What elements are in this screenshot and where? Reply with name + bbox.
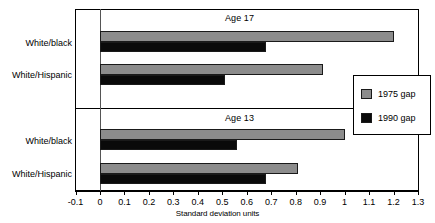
x-tick-12: [369, 191, 370, 195]
x-tick-7: [247, 191, 248, 195]
category-label-age13-white-hispanic: White/Hispanic: [0, 169, 72, 179]
x-tick-13: [394, 191, 395, 195]
panel-title-age-13: Age 13: [80, 113, 399, 123]
panel-title-age-17: Age 17: [80, 13, 399, 23]
x-axis-title: Standard deviation units: [0, 209, 435, 218]
legend-swatch-1975-icon: [361, 89, 372, 99]
x-tick-11: [345, 191, 346, 195]
x-tick-2: [124, 191, 125, 195]
x-tick-4: [173, 191, 174, 195]
x-tick-1: [100, 191, 101, 195]
x-tick-8: [271, 191, 272, 195]
legend-swatch-1990-icon: [361, 113, 372, 123]
category-label-age17-white-hispanic: White/Hispanic: [0, 70, 72, 80]
legend-item-1975-gap: 1975 gap: [361, 88, 416, 100]
x-tick-6: [222, 191, 223, 195]
legend: 1975 gap 1990 gap: [353, 75, 431, 135]
legend-item-1990-gap: 1990 gap: [361, 112, 416, 124]
x-tick-10: [320, 191, 321, 195]
bar-age-13-white-hispanic-1990: [100, 174, 266, 185]
legend-label-1975: 1975 gap: [378, 89, 416, 99]
x-tick-3: [149, 191, 150, 195]
category-label-age17-white-black: White/black: [0, 38, 72, 48]
x-tick-5: [198, 191, 199, 195]
bar-age-13-white-black-1990: [100, 140, 237, 151]
bar-age-17-white-hispanic-1975: [100, 64, 323, 75]
bar-age-17-white-black-1990: [100, 42, 266, 53]
x-tick-14: [418, 191, 419, 195]
bar-age-17-white-black-1975: [100, 31, 394, 42]
legend-label-1990: 1990 gap: [378, 113, 416, 123]
bar-age-13-white-hispanic-1975: [100, 163, 298, 174]
bar-age-13-white-black-1975: [100, 129, 345, 140]
grouped-bar-chart: Age 17 Age 13 White/black White/Hispanic…: [0, 0, 435, 223]
x-tick-label-14: 1.3: [403, 197, 433, 207]
bar-age-17-white-hispanic-1990: [100, 75, 225, 86]
category-label-age13-white-black: White/black: [0, 136, 72, 146]
x-tick-9: [296, 191, 297, 195]
x-tick-0: [76, 191, 77, 195]
